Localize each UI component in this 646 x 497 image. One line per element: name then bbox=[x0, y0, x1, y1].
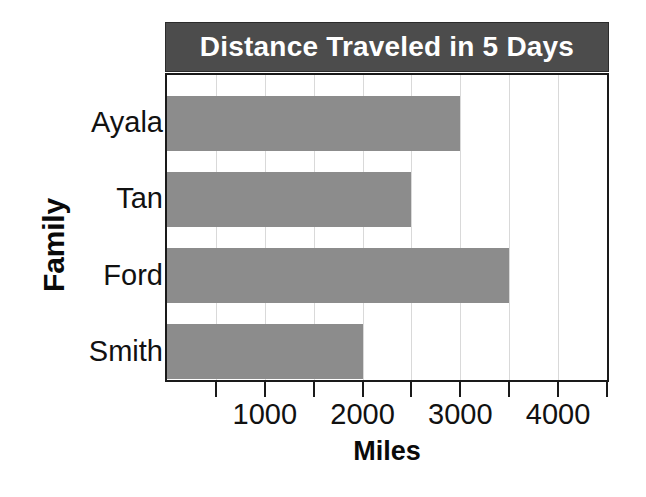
x-axis-tick bbox=[264, 382, 266, 397]
chart-title-bar: Distance Traveled in 5 Days bbox=[165, 22, 609, 72]
bar-ford bbox=[167, 248, 509, 303]
x-axis-title: Miles bbox=[165, 436, 609, 467]
x-axis-tick bbox=[459, 382, 461, 397]
y-axis-tick-labels: Ayala Tan Ford Smith bbox=[60, 88, 163, 378]
y-axis-tick-label-smith: Smith bbox=[60, 337, 163, 366]
x-axis-tick-label-4000: 4000 bbox=[498, 399, 618, 429]
x-axis-tick bbox=[508, 382, 510, 397]
x-axis-ticks bbox=[0, 382, 646, 398]
gridline bbox=[509, 75, 510, 380]
x-axis-tick bbox=[313, 382, 315, 397]
gridline bbox=[460, 75, 461, 380]
x-axis-tick bbox=[557, 382, 559, 397]
y-axis-tick-label-ayala: Ayala bbox=[60, 108, 163, 137]
chart-title: Distance Traveled in 5 Days bbox=[200, 31, 574, 63]
y-axis-tick-label-tan: Tan bbox=[60, 184, 163, 213]
x-axis-tick bbox=[410, 382, 412, 397]
bar-tan bbox=[167, 172, 411, 227]
bar-chart: Family Ayala Tan Ford Smith Distance Tra… bbox=[0, 0, 646, 497]
gridline bbox=[558, 75, 559, 380]
x-axis-tick bbox=[362, 382, 364, 397]
x-axis-tick bbox=[215, 382, 217, 397]
plot-area bbox=[165, 73, 609, 382]
x-axis-tick-labels: 1000200030004000 bbox=[0, 399, 646, 435]
bar-ayala bbox=[167, 96, 460, 151]
y-axis-tick-label-ford: Ford bbox=[60, 261, 163, 290]
bar-smith bbox=[167, 324, 363, 379]
x-axis-tick bbox=[606, 382, 608, 397]
